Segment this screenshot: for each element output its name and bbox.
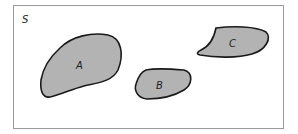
set-c-label: C [229,38,236,49]
set-a-label: A [75,60,83,71]
set-b-label: B [156,80,163,91]
venn-diagram: S A B C [0,0,298,134]
universe-label: S [22,14,29,25]
